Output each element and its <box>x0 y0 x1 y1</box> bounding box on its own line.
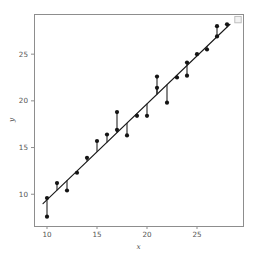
y-tick-label: 25 <box>19 50 28 59</box>
data-point <box>105 132 109 136</box>
data-point <box>75 171 79 175</box>
data-point <box>185 74 189 78</box>
axes-spines <box>35 15 244 227</box>
y-axis-label: y <box>7 117 16 123</box>
data-point <box>145 114 149 118</box>
plot-frame <box>35 15 244 227</box>
data-point <box>195 52 199 56</box>
x-tick-label: 15 <box>92 230 101 239</box>
y-axis-ticks: 10152025 <box>19 50 34 199</box>
data-point <box>125 133 129 137</box>
x-tick-label: 20 <box>142 230 152 239</box>
data-point <box>55 181 59 185</box>
scatter-plot: 10152025 10152025 x y <box>0 0 256 259</box>
data-point <box>215 34 219 38</box>
data-point <box>175 75 179 79</box>
data-point <box>225 22 229 26</box>
data-point <box>115 110 119 114</box>
data-point <box>95 139 99 143</box>
y-tick-label: 15 <box>19 143 28 152</box>
data-point <box>205 47 209 51</box>
y-tick-label: 20 <box>19 96 29 105</box>
ghost-marker <box>235 16 241 22</box>
x-tick-label: 10 <box>42 230 52 239</box>
figure-canvas: 10152025 10152025 x y <box>0 0 256 259</box>
data-point <box>185 60 189 64</box>
data-point <box>165 101 169 105</box>
x-axis-ticks: 10152025 <box>42 226 201 239</box>
x-tick-label: 25 <box>192 230 201 239</box>
data-point <box>135 114 139 118</box>
ghost-square-marker <box>235 16 241 22</box>
x-axis-label: x <box>136 242 141 251</box>
data-point <box>85 156 89 160</box>
data-point <box>65 188 69 192</box>
data-point <box>45 196 49 200</box>
data-point <box>155 86 159 90</box>
data-point <box>45 215 49 219</box>
data-point <box>155 74 159 78</box>
data-point <box>115 128 119 132</box>
data-point <box>215 24 219 28</box>
y-tick-label: 10 <box>19 190 29 199</box>
